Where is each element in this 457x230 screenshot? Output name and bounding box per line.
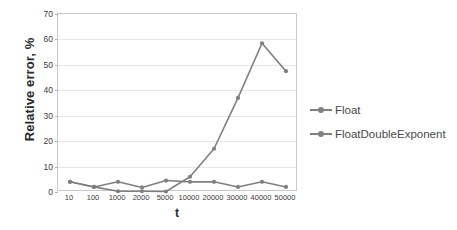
- series-line: [70, 43, 286, 191]
- data-point: [236, 96, 240, 100]
- data-point: [164, 178, 168, 182]
- plot-area: 010203040506070: [57, 13, 297, 191]
- data-point: [260, 180, 264, 184]
- data-point: [92, 185, 96, 189]
- x-axis-tick-labels: 1010010002000500010000200003000040000500…: [57, 193, 297, 205]
- legend-marker-icon: [318, 107, 324, 113]
- data-point: [116, 180, 120, 184]
- y-axis-tick-label: 70: [44, 9, 53, 19]
- y-axis-tick-label: 60: [44, 34, 53, 44]
- chart-figure: Relative error, % 010203040506070 101001…: [0, 0, 457, 230]
- x-axis-tick-label: 40000: [251, 193, 272, 202]
- x-axis-tick-label: 1000: [109, 193, 126, 202]
- data-point: [188, 175, 192, 179]
- y-axis-tick-label: 50: [44, 60, 53, 70]
- series-layer: [58, 14, 298, 192]
- x-axis-tick-label: 5000: [157, 193, 174, 202]
- y-axis-title: Relative error, %: [22, 5, 37, 175]
- legend-marker-icon: [318, 131, 324, 137]
- data-point: [212, 180, 216, 184]
- legend-item[interactable]: Float: [310, 98, 455, 122]
- legend-item[interactable]: FloatDoubleExponent: [310, 122, 455, 146]
- chart-legend: FloatFloatDoubleExponent: [310, 98, 455, 146]
- y-axis-tick-label: 40: [44, 85, 53, 95]
- y-axis-tick-label: 0: [48, 187, 53, 197]
- series-floatdoubleexponent: [68, 41, 288, 193]
- legend-label: FloatDoubleExponent: [335, 128, 446, 140]
- y-axis-tick-label: 30: [44, 111, 53, 121]
- x-axis-tick-label: 100: [87, 193, 100, 202]
- data-point: [212, 147, 216, 151]
- x-axis-tick-label: 30000: [227, 193, 248, 202]
- x-axis-tick-label: 2000: [133, 193, 150, 202]
- legend-swatch-icon: [310, 129, 332, 139]
- legend-label: Float: [335, 104, 361, 116]
- x-axis-tick-label: 20000: [203, 193, 224, 202]
- data-point: [188, 180, 192, 184]
- x-axis-title: t: [57, 206, 297, 220]
- data-point: [260, 41, 264, 45]
- data-point: [284, 69, 288, 73]
- data-point: [68, 180, 72, 184]
- legend-swatch-icon: [310, 105, 332, 115]
- y-axis-tick-label: 20: [44, 136, 53, 146]
- data-point: [284, 185, 288, 189]
- x-axis-tick-label: 10: [65, 193, 73, 202]
- y-axis-tick-label: 10: [44, 162, 53, 172]
- data-point: [236, 185, 240, 189]
- x-axis-tick-label: 50000: [275, 193, 296, 202]
- data-point: [140, 185, 144, 189]
- x-axis-tick-label: 10000: [179, 193, 200, 202]
